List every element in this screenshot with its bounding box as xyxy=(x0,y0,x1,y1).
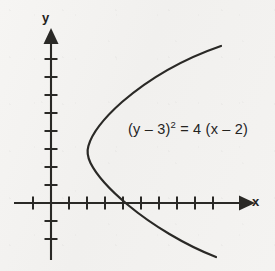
y-axis-label: y xyxy=(42,10,49,25)
parabola-figure: x y (y – 3)2 = 4 (x – 2) xyxy=(0,0,275,271)
y-axis-arrowhead xyxy=(44,28,59,44)
x-axis-label: x xyxy=(252,194,259,209)
equation-rhs: = 4 (x – 2) xyxy=(176,121,248,137)
equation-label: (y – 3)2 = 4 (x – 2) xyxy=(128,121,248,137)
equation-lhs: (y – 3) xyxy=(128,121,171,137)
parabola-curve xyxy=(87,46,221,257)
